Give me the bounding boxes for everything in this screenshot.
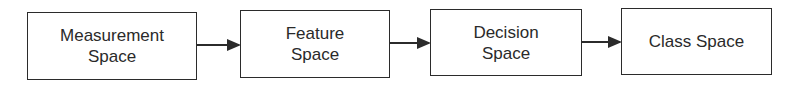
node-label-line: Measurement bbox=[60, 25, 164, 46]
arrow-feature-to-decision bbox=[390, 42, 429, 44]
node-label-line: Space bbox=[286, 44, 345, 65]
node-class-space: Class Space bbox=[621, 8, 772, 75]
node-feature-space: Feature Space bbox=[240, 10, 390, 78]
node-decision-space: Decision Space bbox=[430, 9, 582, 76]
node-measurement-space: Measurement Space bbox=[27, 12, 197, 80]
node-label-line: Decision bbox=[473, 22, 538, 43]
node-label-line: Space bbox=[473, 43, 538, 64]
node-label-line: Class Space bbox=[649, 31, 744, 52]
arrow-decision-to-class bbox=[582, 41, 620, 43]
node-label-line: Feature bbox=[286, 23, 345, 44]
arrow-measurement-to-feature bbox=[197, 44, 239, 46]
node-label-line: Space bbox=[60, 46, 164, 67]
